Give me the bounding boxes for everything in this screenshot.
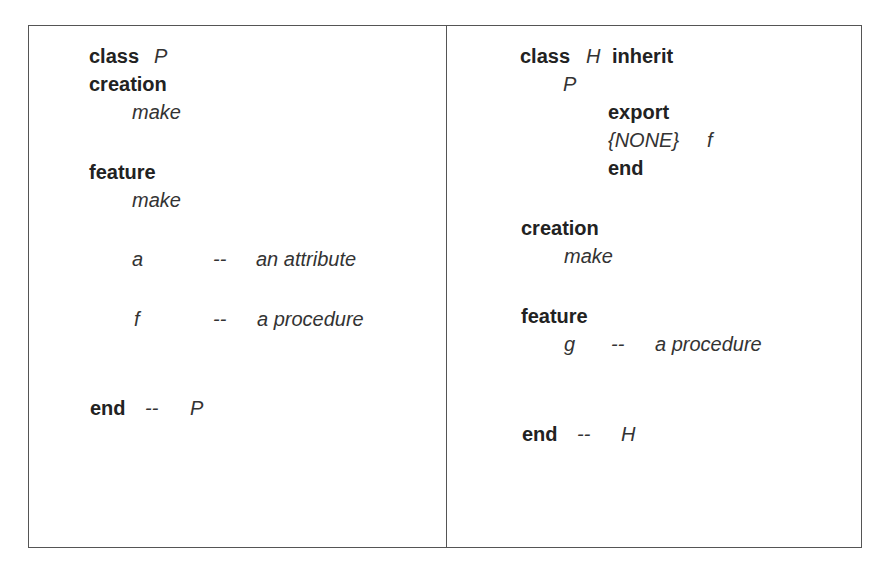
procedure-comment: a procedure [655,332,762,356]
export-target: {NONE} [608,128,679,152]
end-keyword: end [522,422,558,446]
attribute-name: a [132,247,143,271]
comment-dash: -- [611,332,624,356]
creation-keyword: creation [521,216,599,240]
end-class-name: P [190,396,203,420]
class-name: P [154,44,167,68]
comment-dash: -- [577,422,590,446]
creation-procedure: make [564,244,613,268]
comment-dash: -- [213,247,226,271]
class-name: H [586,44,600,68]
comment-dash: -- [213,307,226,331]
class-keyword: class [520,44,570,68]
creation-procedure: make [132,100,181,124]
export-keyword: export [608,100,669,124]
comment-dash: -- [145,396,158,420]
feature-make: make [132,188,181,212]
procedure-name: g [564,332,575,356]
export-feature: f [707,128,713,152]
attribute-comment: an attribute [256,247,356,271]
export-end-keyword: end [608,156,644,180]
panel-divider [446,25,447,548]
end-class-name: H [621,422,635,446]
inherit-keyword: inherit [612,44,673,68]
parent-class-name: P [563,72,576,96]
feature-keyword: feature [89,160,156,184]
feature-keyword: feature [521,304,588,328]
end-keyword: end [90,396,126,420]
class-keyword: class [89,44,139,68]
procedure-name: f [134,307,140,331]
creation-keyword: creation [89,72,167,96]
procedure-comment: a procedure [257,307,364,331]
